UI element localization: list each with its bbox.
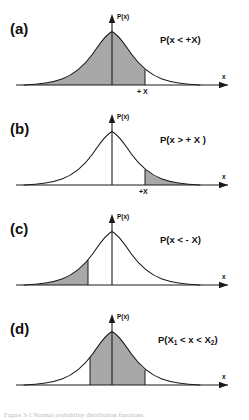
x-axis-arrow-d [219, 382, 228, 388]
shaded-region-b [145, 170, 200, 185]
probability-label-d-suffix: ) [214, 334, 217, 345]
panel-letter-c: (c) [10, 220, 28, 237]
y-axis-arrow-b [109, 114, 115, 123]
panel-b: (b) P(x) x P(x > + X ) +X [0, 100, 249, 200]
figure-root: (a) P(x) x P(x < +X) + X (b) P(x) x P(x … [0, 0, 249, 420]
x-axis-label-b: x [222, 173, 226, 180]
y-axis-label-c: P(x) [117, 213, 129, 221]
probability-label-c: P(x < - X) [160, 234, 201, 245]
y-axis-label-b: P(x) [117, 113, 129, 121]
tick-label-b-plus-x: +X [139, 188, 148, 195]
probability-label-b: P(x > + X ) [160, 134, 206, 145]
figure-caption: Figure 3-1 Normal probability distributi… [0, 410, 249, 420]
y-axis-arrow-d [109, 314, 115, 323]
panel-letter-a: (a) [10, 20, 28, 37]
x-axis-arrow-c [219, 282, 228, 288]
figure-caption-strip: Figure 3-1 Normal probability distributi… [0, 410, 249, 420]
x-axis-arrow-b [219, 182, 228, 188]
y-axis-arrow-a [109, 14, 115, 23]
probability-label-d: P(X1 < x < X2) [158, 334, 218, 346]
panel-c: (c) P(x) x P(x < - X) [0, 200, 249, 300]
x-axis-label-d: x [222, 373, 226, 380]
panel-d: (d) P(x) x P(X1 < x < X2) [0, 300, 249, 400]
panel-a: (a) P(x) x P(x < +X) + X [0, 0, 249, 100]
y-axis-label-d: P(x) [117, 313, 129, 321]
probability-label-a: P(x < +X) [160, 34, 201, 45]
shaded-region-c [26, 260, 88, 285]
probability-label-d-middle: < x < X [177, 334, 211, 345]
panel-letter-b: (b) [10, 120, 29, 137]
shaded-region-d [90, 332, 145, 386]
y-axis-label-a: P(x) [117, 13, 129, 21]
y-axis-arrow-c [109, 214, 115, 223]
probability-label-d-prefix: P(X [158, 334, 175, 345]
x-axis-arrow-a [219, 82, 228, 88]
tick-label-a-plus-x: + X [137, 88, 148, 95]
x-axis-label-c: x [222, 273, 226, 280]
x-axis-label-a: x [222, 73, 226, 80]
panel-letter-d: (d) [10, 320, 29, 337]
shaded-region-a [26, 32, 145, 86]
